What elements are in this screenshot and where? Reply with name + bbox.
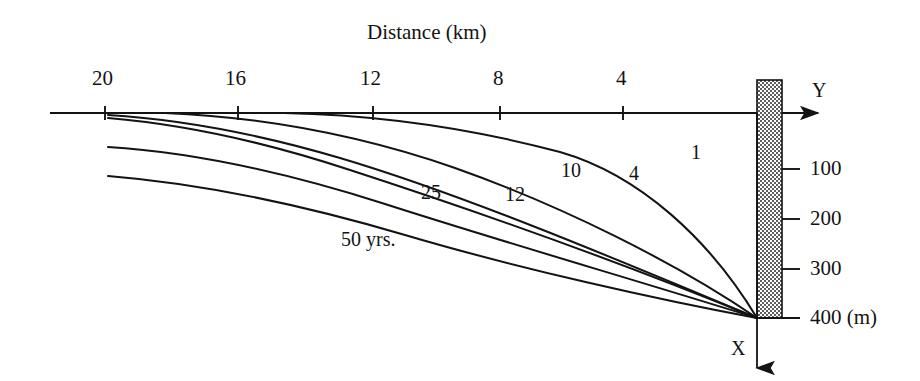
axis-name-y: Y xyxy=(812,80,826,100)
axis-name-x: X xyxy=(731,338,745,358)
chart-title: Distance (km) xyxy=(367,22,487,43)
curve-label-12: 12 xyxy=(505,184,525,204)
y-tick-label-300: 300 xyxy=(810,258,842,279)
curve-label-1: 1 xyxy=(691,142,701,162)
y-tick-label-400: 400 (m) xyxy=(810,307,877,328)
curve-label-25: 25 xyxy=(421,182,441,202)
curve-label-50-yrs: 50 yrs. xyxy=(341,229,395,249)
x-tick-label-8: 8 xyxy=(493,68,504,89)
contour-curve-25 xyxy=(108,147,757,318)
contour-curves xyxy=(108,113,757,318)
figure-container: Distance (km) 20 16 12 8 4 100 200 300 4… xyxy=(0,0,920,381)
x-tick-label-16: 16 xyxy=(225,68,246,89)
x-tick-label-12: 12 xyxy=(360,68,381,89)
y-tick-label-100: 100 xyxy=(810,158,842,179)
curve-label-10: 10 xyxy=(561,160,581,180)
y-tick-label-200: 200 xyxy=(810,208,842,229)
curve-label-4: 4 xyxy=(629,163,639,183)
x-tick-label-20: 20 xyxy=(92,68,113,89)
contour-curve-4 xyxy=(165,113,757,318)
barrier-column xyxy=(757,80,782,318)
x-tick-label-4: 4 xyxy=(616,68,627,89)
contour-plot-svg xyxy=(0,0,920,381)
